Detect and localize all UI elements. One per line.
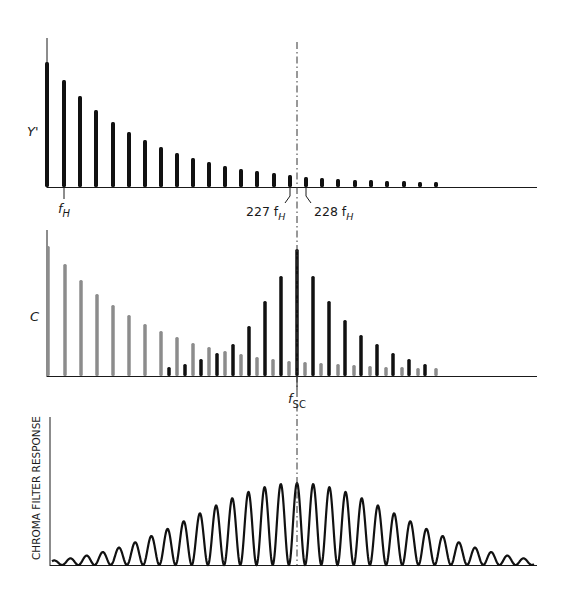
luma-bar-gray: [159, 331, 163, 376]
chroma-bar: [183, 364, 187, 376]
luma-bar-gray: [434, 368, 438, 376]
luma-bar: [320, 178, 324, 187]
luma-bar-gray: [191, 343, 195, 376]
luma-bar: [191, 158, 195, 187]
luma-bar-gray: [46, 246, 50, 376]
chroma-bar: [391, 353, 395, 376]
luma-bar-gray: [368, 366, 372, 376]
filter-panel: CHROMA FILTER RESPONSE: [30, 416, 537, 566]
chroma-bar: [231, 344, 235, 376]
filter-y-label: CHROMA FILTER RESPONSE: [30, 416, 42, 560]
chroma-bar: [279, 276, 283, 376]
luma-bar: [288, 175, 292, 187]
luma-bar-gray: [79, 280, 83, 376]
chroma-bar: [247, 326, 251, 376]
chroma-bar: [167, 367, 171, 376]
luma-bar: [369, 180, 373, 187]
luma-bar: [45, 62, 49, 187]
luma-bar: [434, 182, 438, 187]
luma-bar: [239, 169, 243, 187]
luma-bar-gray: [207, 347, 211, 376]
chroma-filter-curve: [52, 483, 534, 565]
chroma-bar: [215, 353, 219, 376]
h227-leader: [285, 188, 290, 203]
luma-bar: [418, 182, 422, 187]
luma-bar-gray: [303, 362, 307, 376]
luma-bar: [78, 96, 82, 187]
luma-bar-gray: [336, 364, 340, 376]
luma-bar: [94, 110, 98, 187]
luma-bar-gray: [271, 359, 275, 376]
chroma-bar: [311, 276, 315, 376]
h228-label: 228 fH: [314, 204, 353, 222]
chroma-bar: [407, 359, 411, 376]
luma-bar: [402, 181, 406, 187]
luma-y-label: Y': [27, 124, 39, 139]
chroma-bar: [423, 364, 427, 376]
luma-bar-gray: [111, 305, 115, 376]
spectrum-diagram: Y' fH 227 fH 228 fH C fSC CHROMA FILTER …: [0, 0, 568, 595]
luma-bar: [143, 140, 147, 187]
luma-bar: [255, 171, 259, 187]
luma-bar-gray: [384, 367, 388, 376]
luma-bar: [159, 147, 163, 187]
chroma-bar: [343, 320, 347, 376]
luma-bar: [385, 181, 389, 187]
h227-label: 227 fH: [246, 204, 285, 222]
luma-bar: [62, 80, 66, 187]
luma-bar-gray: [95, 294, 99, 376]
luma-bar: [223, 166, 227, 187]
luma-bar-gray: [175, 337, 179, 376]
chroma-bar: [375, 344, 379, 376]
luma-bar: [304, 177, 308, 187]
luma-bar-gray: [63, 264, 67, 376]
luma-bar-gray: [319, 363, 323, 376]
luma-bar: [175, 153, 179, 187]
luma-bar-gray: [287, 361, 291, 376]
chroma-bar: [327, 301, 331, 376]
luma-bar-gray: [127, 315, 131, 376]
chroma-bar: [359, 335, 363, 376]
luma-bar-gray: [223, 351, 227, 376]
luma-bar-gray: [143, 324, 147, 376]
luma-bar-gray: [416, 368, 420, 376]
luma-bar: [111, 122, 115, 187]
fh-label: fH: [58, 201, 71, 219]
luma-bar-gray: [400, 367, 404, 376]
luma-bar: [127, 132, 131, 187]
chroma-y-label: C: [30, 309, 40, 324]
luma-bar: [353, 180, 357, 187]
luma-bar-gray: [239, 354, 243, 376]
chroma-bar: [199, 359, 203, 376]
luma-panel: Y' fH 227 fH 228 fH: [27, 38, 537, 222]
luma-bar: [207, 162, 211, 187]
chroma-bar: [263, 301, 267, 376]
luma-bar-gray: [255, 357, 259, 376]
chroma-panel: C fSC: [30, 230, 537, 410]
luma-bars: [45, 62, 438, 187]
h228-leader: [306, 188, 311, 203]
luma-bar-gray: [352, 365, 356, 376]
chroma-luma-bars: [46, 246, 438, 376]
luma-bar: [272, 173, 276, 187]
luma-bar: [336, 179, 340, 187]
